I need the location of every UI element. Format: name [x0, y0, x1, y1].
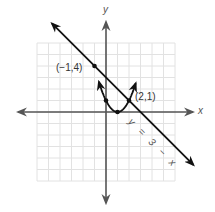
- line-y-equals-3-minus-x: [52, 23, 193, 164]
- axes: [18, 22, 193, 203]
- graph-canvas: [0, 0, 215, 212]
- point-label-2-1: (2,1): [135, 91, 156, 102]
- y-axis-label: y: [103, 4, 108, 15]
- x-axis-label: x: [198, 105, 203, 116]
- point-marker: [104, 98, 109, 103]
- point-marker: [92, 64, 97, 69]
- point-marker: [115, 110, 120, 115]
- point-label-neg1-4: (−1,4): [56, 62, 82, 73]
- point-marker: [127, 98, 132, 103]
